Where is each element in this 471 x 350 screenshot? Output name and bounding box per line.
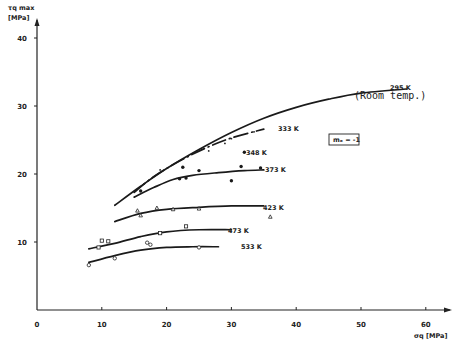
y-tick-label: 20: [17, 171, 27, 179]
marker-dot: [231, 138, 233, 140]
marker-open-square: [100, 239, 103, 242]
marker-dot: [208, 150, 210, 152]
curve-373k: [134, 170, 264, 197]
x-tick-label: 60: [421, 321, 431, 329]
x-tick-label: 20: [162, 321, 172, 329]
marker-open-circle: [113, 257, 116, 260]
x-tick-label: 0: [35, 321, 40, 329]
marker-open-square: [107, 240, 110, 243]
series-label-373k: 373 K: [265, 166, 287, 174]
curve-333k: [134, 129, 264, 192]
y-axis-unit: [MPa]: [8, 14, 29, 22]
x-tick-label: 40: [291, 321, 301, 329]
y-tick-label: 40: [17, 35, 27, 43]
axes: 010203040506010203040: [17, 18, 452, 329]
series-layer: [89, 89, 407, 262]
marker-open-triangle: [136, 209, 140, 212]
marker-filled-circle: [181, 166, 184, 169]
marker-filled-circle: [178, 177, 181, 180]
marker-open-circle: [87, 263, 90, 266]
marker-dot: [224, 143, 226, 145]
marker-open-triangle: [268, 215, 272, 218]
marker-filled-circle: [230, 179, 233, 182]
marker-open-circle: [145, 241, 148, 244]
curve-423k: [115, 206, 264, 222]
marker-open-square: [184, 225, 187, 228]
marker-open-circle: [197, 246, 200, 249]
me-box-label: mₑ = -1: [333, 136, 361, 144]
y-tick-label: 10: [17, 239, 27, 247]
label-348k: 348 K: [246, 149, 268, 157]
series-label-473k: 473 K: [228, 227, 250, 235]
x-tick-label: 30: [227, 321, 237, 329]
y-axis-title: τq max: [8, 4, 35, 12]
y-axis-arrow-icon: [35, 18, 40, 26]
series-label-423k: 423 K: [263, 204, 285, 212]
marker-filled-circle: [184, 176, 187, 179]
markers-layer: 295 K333 K373 K423 K473 K533 K: [87, 84, 412, 267]
x-tick-label: 10: [97, 321, 107, 329]
marker-dot: [253, 131, 255, 133]
marker-filled-circle: [239, 165, 242, 168]
room-temp-note: (Room temp.): [354, 90, 426, 101]
series-label-533k: 533 K: [241, 243, 263, 251]
series-label-333k: 333 K: [278, 125, 300, 133]
marker-open-square: [159, 232, 162, 235]
x-axis-title: σq [MPa]: [414, 332, 447, 340]
x-axis-arrow-icon: [444, 308, 452, 313]
x-tick-label: 50: [356, 321, 366, 329]
marker-dot: [143, 183, 145, 185]
marker-open-triangle: [155, 206, 159, 209]
marker-open-circle: [149, 243, 152, 246]
curve-295k: [115, 89, 407, 205]
marker-filled-circle: [259, 166, 262, 169]
marker-open-square: [97, 246, 100, 249]
y-tick-label: 30: [17, 103, 27, 111]
marker-filled-circle: [197, 169, 200, 172]
chart: 010203040506010203040 295 K333 K373 K423…: [0, 0, 471, 350]
marker-filled-circle: [139, 189, 142, 192]
marker-dot: [159, 169, 161, 171]
